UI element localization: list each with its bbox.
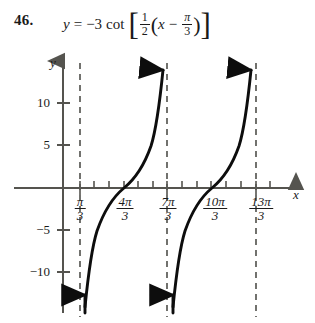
x-tick-fraction: 4π 3: [116, 195, 133, 223]
x-tick-denominator: 3: [163, 209, 174, 222]
problem-number: 46.: [14, 12, 33, 29]
x-tick-label-pi-over-3: π 3: [74, 195, 87, 223]
y-tick-label-10: 10: [12, 95, 50, 111]
cotangent-graph: y x 10 5 −5 −10 π 3 4π 3 7π 3: [0, 45, 315, 323]
x-tick-numerator: π: [75, 195, 86, 209]
x-tick-denominator: 3: [210, 209, 221, 222]
equation-coefficient: −3: [86, 16, 102, 33]
x-tick-fraction: 13π 3: [249, 195, 273, 223]
x-tick-numerator: 7π: [159, 195, 176, 209]
y-axis-label: y: [50, 55, 56, 71]
equation-function-name: cot: [106, 16, 124, 33]
x-axis-label: x: [293, 187, 299, 203]
inner-coefficient-fraction: 1 2: [140, 11, 150, 36]
equation-variable: x: [158, 16, 165, 33]
equation-equals: =: [74, 16, 82, 33]
x-tick-label-4pi-over-3: 4π 3: [115, 195, 134, 223]
graph-svg: [0, 45, 315, 323]
y-tick-label-5: 5: [12, 137, 50, 153]
y-tick-label-minus-5: −5: [12, 222, 50, 238]
x-tick-fraction: 10π 3: [203, 195, 227, 223]
x-tick-denominator: 3: [256, 209, 267, 222]
curve-branch-1: [85, 70, 163, 313]
x-tick-label-10pi-over-3: 10π 3: [202, 195, 228, 223]
x-tick-fraction: π 3: [75, 195, 86, 223]
phase-shift-denominator: 3: [182, 25, 192, 37]
phase-shift-fraction: π 3: [182, 11, 192, 36]
equation: y = −3 cot [ 1 2 ( x − π 3 ) ]: [63, 8, 211, 40]
inner-coefficient-denominator: 2: [140, 25, 150, 37]
x-tick-label-7pi-over-3: 7π 3: [158, 195, 177, 223]
x-tick-denominator: 3: [75, 209, 86, 222]
x-tick-label-13pi-over-3: 13π 3: [248, 195, 274, 223]
y-tick-label-minus-10: −10: [8, 264, 50, 280]
x-tick-denominator: 3: [120, 209, 131, 222]
asymptotes: [80, 63, 256, 317]
x-tick-numerator: 10π: [203, 195, 227, 209]
x-tick-numerator: 13π: [249, 195, 273, 209]
equation-lhs: y: [63, 16, 70, 33]
equation-minus: −: [169, 16, 177, 33]
x-tick-numerator: 4π: [116, 195, 133, 209]
curve-branch-2: [173, 70, 251, 313]
inner-coefficient-numerator: 1: [140, 11, 150, 24]
x-tick-fraction: 7π 3: [159, 195, 176, 223]
phase-shift-numerator: π: [182, 11, 192, 24]
problem-header: 46. y = −3 cot [ 1 2 ( x − π 3 ): [0, 0, 315, 48]
figure-page: 46. y = −3 cot [ 1 2 ( x − π 3 ): [0, 0, 315, 323]
